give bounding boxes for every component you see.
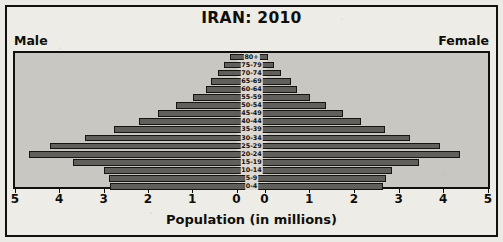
age-group-label: 65-69 [240,77,262,85]
male-bar [85,135,251,142]
x-tick-right-0: 0 [260,192,268,206]
male-bar [139,118,252,125]
age-group-label: 10-14 [240,166,262,174]
female-bar [252,167,392,174]
x-tick-left-4: 4 [55,192,63,206]
age-group-label: 50-54 [240,101,262,109]
x-tick-right-4: 4 [439,192,447,206]
x-tick-right-2: 2 [350,192,358,206]
age-group-label: 0-4 [245,182,259,190]
x-tick-right-3: 3 [394,192,402,206]
male-bar [110,183,251,190]
pyramid-rows: 80+75-7970-7465-6960-6455-5950-5445-4940… [15,53,488,191]
male-bar [114,126,251,133]
female-bar [252,151,460,158]
female-bar [252,118,362,125]
age-group-label: 40-44 [240,117,262,125]
female-bar [252,126,386,133]
male-bar [29,151,251,158]
x-tick-left-3: 3 [99,192,107,206]
age-group-label: 15-19 [240,158,262,166]
x-axis-title: Population (in millions) [0,212,503,227]
age-group-label: 60-64 [240,85,262,93]
age-group-label: 35-39 [240,125,262,133]
age-group-label: 20-24 [240,150,262,158]
male-bar [109,175,251,182]
age-group-label: 55-59 [240,93,262,101]
x-axis: 543210012345 [13,189,490,211]
female-bar [252,110,343,117]
x-tick-left-0: 0 [232,192,240,206]
female-bar [252,159,420,166]
female-bar [252,175,386,182]
age-group-label: 5-9 [245,174,259,182]
plot-area: 80+75-7970-7465-6960-6455-5950-5445-4940… [13,51,490,189]
x-tick-left-5: 5 [11,192,19,206]
female-bar [252,183,384,190]
male-bar [158,110,252,117]
age-group-label: 45-49 [240,109,262,117]
age-group-label: 70-74 [240,69,262,77]
female-side-label: Female [438,33,489,48]
age-group-label: 25-29 [240,142,262,150]
age-group-label: 80+ [243,53,259,61]
male-bar [104,167,252,174]
female-bar [252,135,410,142]
male-bar [73,159,252,166]
x-tick-right-1: 1 [305,192,313,206]
female-bar [252,143,440,150]
male-bar [50,143,251,150]
age-group-label: 30-34 [240,134,262,142]
x-tick-left-1: 1 [188,192,196,206]
age-group-label: 75-79 [240,61,262,69]
pyramid-row: 0-4 [15,183,488,191]
population-pyramid-figure: IRAN: 2010 Male Female 80+75-7970-7465-6… [0,0,503,242]
chart-title: IRAN: 2010 [0,9,503,27]
x-tick-left-2: 2 [144,192,152,206]
x-tick-right-5: 5 [484,192,492,206]
male-side-label: Male [14,33,48,48]
